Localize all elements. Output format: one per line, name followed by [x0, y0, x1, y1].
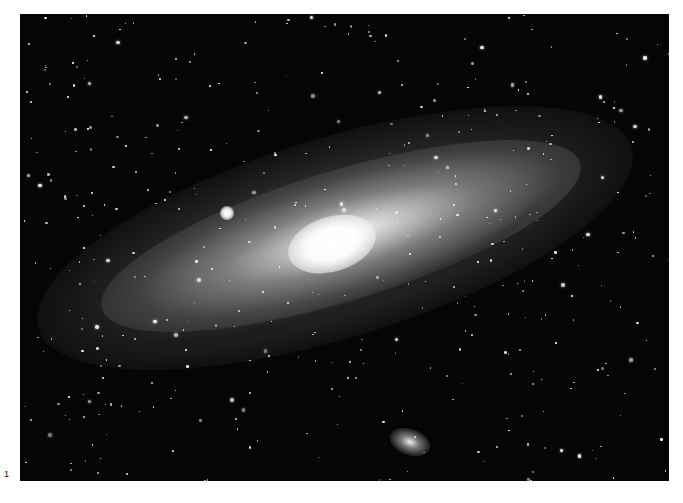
star — [645, 195, 648, 198]
star — [599, 95, 603, 99]
star — [331, 362, 333, 364]
star — [145, 137, 147, 139]
star — [496, 114, 498, 116]
star — [541, 379, 543, 381]
star — [219, 228, 221, 230]
star — [26, 91, 28, 93]
star — [230, 398, 234, 402]
star — [228, 215, 230, 217]
star — [363, 363, 365, 365]
star — [404, 144, 406, 146]
star — [610, 300, 612, 302]
star — [626, 64, 628, 66]
star — [465, 330, 467, 332]
star — [194, 303, 196, 305]
star — [456, 214, 459, 217]
star — [376, 276, 379, 279]
star — [458, 131, 460, 133]
star — [617, 192, 619, 194]
star — [571, 295, 573, 297]
star — [79, 283, 81, 285]
star — [72, 62, 74, 64]
star — [397, 221, 399, 223]
star — [337, 424, 339, 426]
star — [348, 33, 350, 35]
star — [510, 373, 512, 375]
star — [334, 23, 337, 26]
star — [521, 415, 523, 417]
star — [531, 29, 533, 31]
star — [112, 166, 115, 169]
star — [508, 353, 510, 355]
star — [554, 251, 557, 254]
star — [561, 283, 565, 287]
star — [104, 204, 106, 206]
star — [515, 216, 517, 218]
star — [459, 348, 462, 351]
star — [84, 78, 86, 80]
star — [474, 306, 476, 308]
star — [249, 392, 252, 395]
star — [355, 377, 357, 379]
star — [660, 438, 663, 441]
star — [153, 320, 157, 324]
star — [175, 390, 177, 392]
star — [172, 450, 174, 452]
star — [517, 283, 519, 285]
star — [360, 349, 363, 352]
star — [620, 306, 622, 308]
star — [522, 290, 524, 292]
star — [306, 433, 308, 435]
star — [382, 421, 385, 424]
star — [175, 78, 178, 81]
star — [274, 226, 277, 229]
star — [515, 110, 517, 112]
star — [210, 149, 212, 151]
star — [287, 19, 290, 22]
star — [177, 130, 179, 132]
star — [96, 347, 99, 350]
star — [524, 280, 526, 282]
star — [503, 241, 505, 243]
star — [286, 23, 288, 25]
star — [294, 204, 297, 207]
star — [527, 147, 530, 150]
star — [252, 191, 256, 195]
star — [97, 392, 100, 395]
star — [368, 25, 370, 27]
star — [178, 208, 180, 210]
star — [455, 183, 457, 185]
star — [116, 41, 120, 45]
star — [643, 56, 647, 60]
star — [652, 255, 654, 257]
star — [614, 101, 616, 103]
star — [158, 74, 160, 76]
star — [255, 21, 257, 23]
star — [45, 222, 48, 225]
star — [122, 335, 124, 337]
star — [484, 108, 486, 110]
star — [88, 400, 92, 404]
star — [197, 278, 201, 282]
star — [88, 82, 92, 86]
star — [455, 175, 457, 177]
star — [480, 46, 484, 50]
star — [543, 411, 545, 413]
star — [68, 396, 70, 398]
star — [617, 252, 619, 254]
companion-galaxy-upper — [220, 206, 234, 220]
star — [106, 434, 108, 436]
star — [378, 91, 382, 95]
star — [504, 351, 507, 354]
star — [37, 337, 39, 339]
star — [578, 454, 582, 458]
star — [321, 72, 323, 74]
star — [83, 205, 86, 208]
star — [166, 319, 168, 321]
star — [633, 125, 637, 129]
star — [578, 265, 580, 267]
star — [218, 83, 220, 85]
star — [257, 440, 259, 442]
star — [310, 16, 314, 20]
star — [471, 62, 474, 65]
